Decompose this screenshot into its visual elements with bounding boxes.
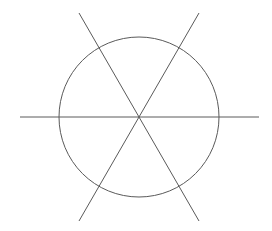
circle-diagram: [0, 0, 272, 231]
